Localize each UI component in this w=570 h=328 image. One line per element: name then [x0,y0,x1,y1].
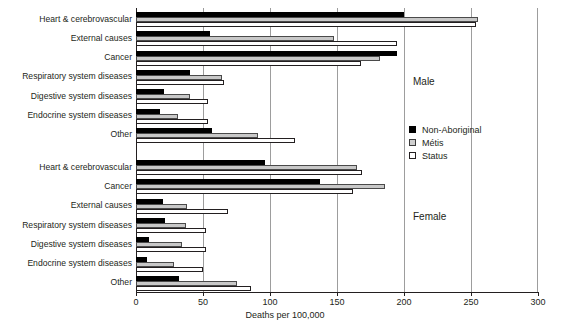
x-tick-label-100: 100 [262,297,277,307]
bar [136,247,206,252]
bar [136,138,295,143]
legend-swatch-icon-status [409,152,416,159]
bar [136,170,362,175]
category-label: Digestive system diseases [0,91,132,101]
x-tick-0 [136,292,137,296]
x-tick-150 [337,292,338,296]
gridline-300 [537,8,538,292]
bar [136,61,361,66]
category-label: Respiratory system diseases [0,220,132,230]
category-label: Respiratory system diseases [0,71,132,81]
grouped-bar-chart: Heart & cerebrovascularExternal causesCa… [0,0,570,328]
legend: Non-Aboriginal Métis Status [409,123,482,162]
legend-item-metis: Métis [409,136,482,149]
x-tick-200 [404,292,405,296]
bar [136,41,397,46]
category-label: Digestive system diseases [0,239,132,249]
x-tick-label-200: 200 [396,297,411,307]
x-tick-label-150: 150 [329,297,344,307]
category-label: Other [0,277,132,287]
bar [136,99,208,104]
category-label: Endocrine system diseases [0,110,132,120]
bar [136,189,353,194]
panel-label-female: Female [413,211,446,222]
x-axis-title: Deaths per 100,000 [0,310,570,320]
category-label: Heart & cerebrovascular [0,14,132,24]
legend-label-metis: Métis [422,138,444,148]
panel-label-male: Male [413,76,435,87]
x-tick-label-50: 50 [198,297,208,307]
bar [136,119,208,124]
x-tick-label-250: 250 [463,297,478,307]
legend-label-non-aboriginal: Non-Aboriginal [422,125,482,135]
category-label: Cancer [0,52,132,62]
x-tick-label-300: 300 [530,297,545,307]
legend-swatch-icon-non-aboriginal [409,126,416,133]
x-tick-300 [538,292,539,296]
legend-label-status: Status [422,151,448,161]
category-label: External causes [0,33,132,43]
category-label: Other [0,129,132,139]
x-tick-50 [203,292,204,296]
category-label: Heart & cerebrovascular [0,162,132,172]
gridline-200 [404,8,405,292]
category-label: Endocrine system diseases [0,258,132,268]
legend-swatch-icon-metis [409,139,416,146]
x-tick-100 [270,292,271,296]
category-label: Cancer [0,181,132,191]
bar [136,22,476,27]
category-label: External causes [0,200,132,210]
bar [136,209,228,214]
x-tick-250 [471,292,472,296]
bar [136,267,203,272]
bar [136,80,224,85]
legend-item-non-aboriginal: Non-Aboriginal [409,123,482,136]
bar [136,228,206,233]
legend-item-status: Status [409,149,482,162]
x-tick-label-0: 0 [133,297,138,307]
bar [136,286,251,291]
